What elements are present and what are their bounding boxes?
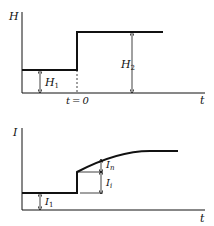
step-response-diagram: H t t = 0 H1 H2 I t In Ii I1 [0, 0, 214, 226]
top-plot: H t t = 0 H1 H2 [8, 10, 205, 107]
top-y-axis-label: H [8, 10, 19, 23]
i1-label: I1 [44, 196, 53, 209]
top-x-axis-label: t [200, 94, 205, 107]
ii-label: Ii [105, 177, 112, 190]
in-label: In [105, 159, 115, 172]
h1-label: H1 [44, 76, 59, 90]
bottom-y-axis-label: I [12, 126, 18, 139]
step-time-label: t = 0 [66, 95, 89, 106]
bottom-x-axis-label: t [200, 212, 205, 225]
bottom-plot: I t In Ii I1 [12, 126, 205, 225]
h2-label: H2 [120, 58, 135, 72]
head-step-curve [22, 32, 163, 70]
